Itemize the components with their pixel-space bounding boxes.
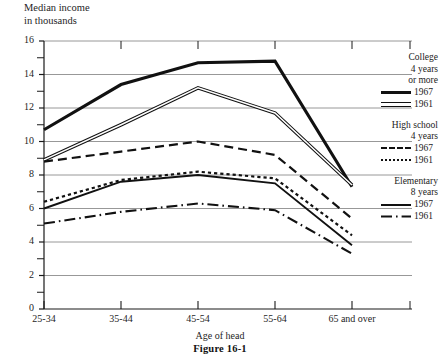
y-axis-tick-label: 16 — [12, 34, 34, 45]
legend-group: High school 4 years19671961 — [358, 120, 440, 167]
legend-group: College 4 years or more19671961 — [358, 52, 440, 111]
y-axis-tick-label: 12 — [12, 101, 34, 112]
x-axis-tick-label: 25-34 — [9, 313, 79, 324]
legend-swatch-double-line-icon — [381, 100, 411, 109]
legend-item[interactable]: 1961 — [358, 99, 440, 111]
y-axis-tick-label: 6 — [12, 202, 34, 213]
y-axis-tick-label: 4 — [12, 235, 34, 246]
legend-swatch-solid-icon — [381, 200, 411, 209]
legend-swatch-dashed-icon — [381, 144, 411, 153]
legend-group-heading: College 4 years or more — [358, 52, 440, 87]
series-line — [44, 61, 352, 187]
x-axis-title-text: Age of head — [196, 330, 245, 341]
chart-legend: College 4 years or more19671961High scho… — [358, 52, 440, 232]
legend-swatch-dotted-icon — [381, 156, 411, 165]
legend-item-label: 1967 — [414, 199, 440, 211]
legend-group-heading: Elementary 8 years — [358, 176, 440, 199]
y-axis-tick-label: 14 — [12, 68, 34, 79]
legend-item[interactable]: 1967 — [358, 143, 440, 155]
legend-item[interactable]: 1967 — [358, 87, 440, 99]
y-axis-tick-label: 10 — [12, 135, 34, 146]
legend-item-label: 1967 — [414, 87, 440, 99]
legend-item[interactable]: 1967 — [358, 199, 440, 211]
x-axis-tick-label: 45-54 — [163, 313, 233, 324]
y-axis-tick-label: 0 — [12, 302, 34, 313]
legend-item-label: 1961 — [414, 99, 440, 111]
legend-item[interactable]: 1961 — [358, 155, 440, 167]
legend-item-label: 1967 — [414, 143, 440, 155]
legend-swatch-solid-thick-icon — [381, 88, 411, 97]
figure-caption: Figure 16-1 — [0, 343, 440, 354]
legend-item-label: 1961 — [414, 211, 440, 223]
series-line — [44, 175, 352, 245]
x-axis-tick-label: 35-44 — [86, 313, 156, 324]
legend-item[interactable]: 1961 — [358, 211, 440, 223]
y-axis-tick-label: 2 — [12, 269, 34, 280]
legend-item-label: 1961 — [414, 155, 440, 167]
x-axis-tick-label: 55-64 — [240, 313, 310, 324]
legend-group-heading: High school 4 years — [358, 120, 440, 143]
series-line — [44, 203, 352, 253]
legend-group: Elementary 8 years19671961 — [358, 176, 440, 223]
x-axis-tick-label: 65 and over — [317, 313, 387, 324]
chart-figure: Median incomein thousands College 4 year… — [0, 0, 440, 360]
legend-swatch-dash-dot-icon — [381, 212, 411, 221]
x-axis-title: Age of head — [0, 330, 440, 343]
y-axis-tick-label: 8 — [12, 168, 34, 179]
